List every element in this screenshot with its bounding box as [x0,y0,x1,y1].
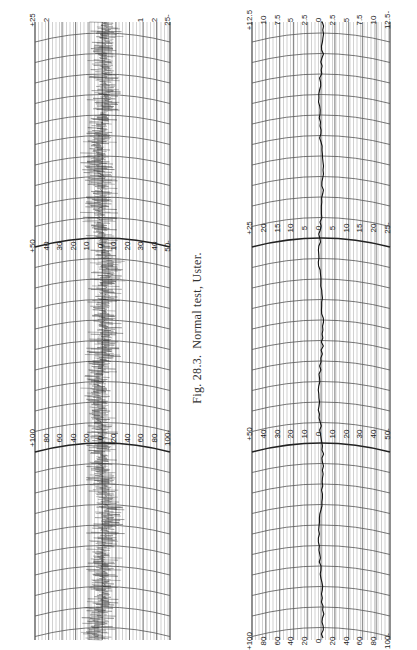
trace-segment [106,529,114,530]
trace-segment [103,63,105,64]
trace-segment [94,452,102,453]
trace-segment [105,30,110,31]
trace-segment [106,89,112,90]
scale-label: 40 [42,241,51,250]
trace-segment [105,91,120,92]
trace-segment [97,149,110,150]
trace-segment [97,189,107,190]
trace-segment [88,639,102,640]
trace-segment [93,383,106,384]
trace-segment [91,469,109,470]
figure-caption-text: Normal test, Uster. [190,252,204,348]
trace-segment [95,155,104,156]
scale-label: 30 [273,429,282,438]
trace-segment [97,32,114,33]
trace-segment [93,151,107,152]
scale-label: +25 [245,221,254,235]
trace-segment [95,159,105,160]
trace-segment [103,110,112,111]
trace-segment [97,172,112,173]
trace-segment [103,96,108,97]
trace-segment [91,614,107,615]
trace-segment [96,544,117,545]
trace-segment [103,544,105,545]
trace-segment [95,637,112,638]
trace-segment [99,234,112,235]
trace-segment [99,217,101,218]
trace-segment [92,429,108,430]
trace-segment [91,31,122,32]
trace-segment [94,47,113,48]
scale-label: 80 [369,636,378,645]
trace-segment [99,595,108,596]
scale-label: 30 [55,241,64,250]
trace-segment [85,180,118,181]
trace-segment [96,399,101,400]
left-chart-svg: +2521225-+504030201001020304050-+1008060… [0,0,200,650]
trace-segment [98,611,105,612]
trace-segment [91,380,106,381]
scale-label: 5 [286,17,295,22]
scale-label: 7.5 [273,14,282,26]
trace-segment [96,547,107,548]
trace-segment [102,532,116,533]
trace-segment [97,125,102,126]
trace-segment [93,145,102,146]
trace-segment [89,450,111,451]
trace-segment [101,285,109,286]
trace-segment [106,287,108,288]
trace-segment [89,123,108,124]
trace-segment [107,514,120,515]
scale-label: 20 [369,223,378,232]
trace-segment [92,131,105,132]
scale-label: 20 [69,241,78,250]
trace-segment [100,175,104,176]
trace-segment [101,482,110,483]
trace-segment [103,331,110,332]
trace-segment [97,201,108,202]
trace-segment [90,341,119,342]
trace-segment [95,576,118,577]
scale-label: 20 [259,223,268,232]
trace-segment [91,589,106,590]
scale-label: 60 [355,636,364,645]
trace-segment [95,623,107,624]
trace-segment [97,90,114,91]
trace-segment [102,271,111,272]
trace-segment [99,558,104,559]
trace-segment [91,70,111,71]
trace-segment [88,426,112,427]
scale-label: 15 [355,223,364,232]
trace-segment [105,496,107,497]
trace-segment [96,231,103,232]
trace-segment [88,599,119,600]
trace-segment [99,181,104,182]
scale-label: 10 [286,223,295,232]
trace-segment [98,213,102,214]
trace-segment [95,133,101,134]
trace-segment [106,268,110,269]
trace-segment [92,427,110,428]
trace-segment [104,70,114,71]
scale-label: 40 [69,433,78,442]
trace-segment [96,377,110,378]
scale-label: 10 [342,223,351,232]
trace-segment [101,345,114,346]
scale-label: 80 [42,433,51,442]
trace-segment [92,126,107,127]
trace-segment [97,444,115,445]
scale-label: 5 [328,225,337,230]
trace-segment [99,163,113,164]
scale-label: 10 [369,15,378,24]
trace-segment [96,457,105,458]
trace-segment [103,65,113,66]
scale-label: 12.5- [383,11,392,30]
trace-segment [96,383,101,384]
trace-segment [104,275,109,276]
scale-label: 10 [300,429,309,438]
trace-segment [92,386,105,387]
trace-segment [96,264,119,265]
scale-label: 40 [369,429,378,438]
trace-segment [91,627,99,628]
trace-segment [92,301,117,302]
